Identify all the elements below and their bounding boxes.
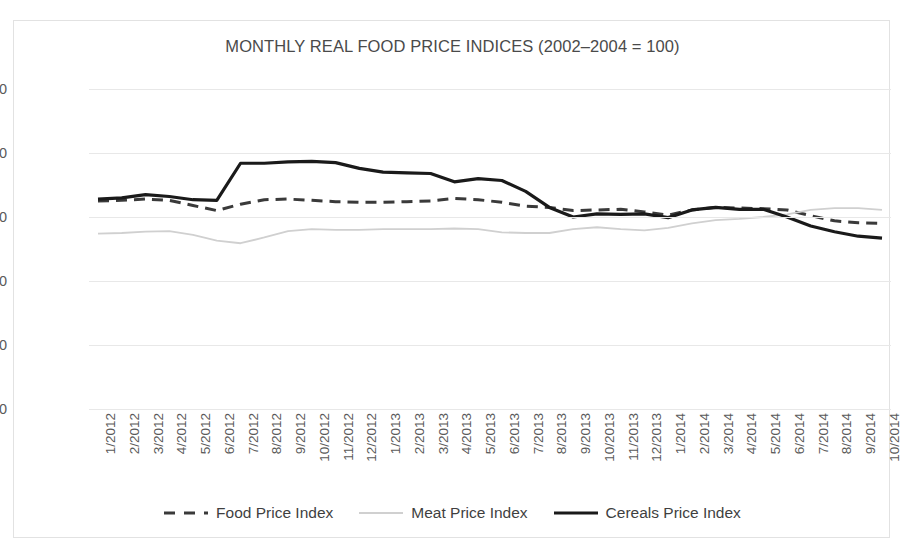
x-axis-tick-label: 5/2013 — [483, 413, 498, 454]
x-axis-tick-label: 3/2013 — [436, 413, 451, 454]
x-axis-tick-label: 1/2012 — [103, 413, 118, 454]
series-line — [98, 208, 882, 243]
x-axis-tick-label: 5/2012 — [198, 413, 213, 454]
chart-title: MONTHLY REAL FOOD PRICE INDICES (2002–20… — [14, 37, 891, 56]
x-axis-tick-label: 1/2014 — [673, 413, 688, 454]
x-axis-tick-label: 4/2014 — [744, 413, 759, 454]
legend-label: Meat Price Index — [411, 504, 527, 522]
y-axis-tick-label: 0.0 — [0, 401, 7, 417]
legend-swatch-icon — [164, 507, 208, 519]
x-axis-tick-label: 3/2012 — [151, 413, 166, 454]
x-axis-tick-label: 11/2012 — [341, 413, 356, 461]
x-axis-tick-label: 11/2013 — [626, 413, 641, 461]
x-axis-tick-label: 8/2013 — [554, 413, 569, 454]
chart-container: MONTHLY REAL FOOD PRICE INDICES (2002–20… — [13, 20, 890, 538]
gridline — [89, 89, 891, 90]
x-axis-tick-label: 10/2014 — [887, 413, 902, 462]
y-axis-tick-label: 250.0 — [0, 81, 7, 97]
legend-label: Food Price Index — [216, 504, 333, 522]
x-axis-tick-label: 5/2014 — [768, 413, 783, 454]
x-axis-tick-label: 7/2014 — [816, 413, 831, 454]
gridline — [89, 345, 891, 346]
x-axis-tick-label: 4/2012 — [174, 413, 189, 454]
legend-label: Cereals Price Index — [606, 504, 741, 522]
series-line — [98, 161, 882, 238]
x-axis-tick-label: 2/2012 — [127, 413, 142, 454]
y-axis-tick-label: 100.0 — [0, 273, 7, 289]
x-axis-tick-label: 9/2014 — [863, 413, 878, 454]
x-axis-tick-label: 7/2012 — [246, 413, 261, 454]
x-axis-tick-label: 9/2013 — [578, 413, 593, 454]
x-axis-tick-label: 6/2014 — [792, 413, 807, 454]
plot-area — [89, 89, 891, 409]
y-axis-tick-label: 50.0 — [0, 337, 7, 353]
x-axis-tick-label: 12/2013 — [649, 413, 664, 462]
chart-legend: Food Price IndexMeat Price IndexCereals … — [14, 504, 891, 522]
x-axis-tick-label: 6/2012 — [222, 413, 237, 454]
x-axis-tick-label: 1/2013 — [388, 413, 403, 454]
x-axis-tick-label: 7/2013 — [531, 413, 546, 454]
legend-swatch-icon — [359, 507, 403, 519]
y-axis-tick-label: 150.0 — [0, 209, 7, 225]
x-axis-tick-label: 2/2014 — [697, 413, 712, 454]
x-axis-tick-label: 3/2014 — [721, 413, 736, 454]
gridline — [89, 281, 891, 282]
x-axis-tick-label: 10/2012 — [317, 413, 332, 462]
x-axis-tick-label: 2/2013 — [412, 413, 427, 454]
x-axis-labels: 1/20122/20123/20124/20125/20126/20127/20… — [89, 413, 891, 513]
legend-item[interactable]: Food Price Index — [164, 504, 333, 522]
legend-swatch-icon — [554, 507, 598, 519]
x-axis-tick-label: 8/2014 — [839, 413, 854, 454]
x-axis-tick-label: 10/2013 — [602, 413, 617, 462]
gridline — [89, 409, 891, 410]
y-axis-tick-label: 200.0 — [0, 145, 7, 161]
x-axis-tick-label: 12/2012 — [364, 413, 379, 462]
gridline — [89, 217, 891, 218]
legend-item[interactable]: Cereals Price Index — [554, 504, 741, 522]
chart-lines — [89, 89, 891, 409]
legend-item[interactable]: Meat Price Index — [359, 504, 527, 522]
x-axis-tick-label: 8/2012 — [269, 413, 284, 454]
gridline — [89, 153, 891, 154]
x-axis-tick-label: 6/2013 — [507, 413, 522, 454]
x-axis-tick-label: 4/2013 — [459, 413, 474, 454]
x-axis-tick-label: 9/2012 — [293, 413, 308, 454]
